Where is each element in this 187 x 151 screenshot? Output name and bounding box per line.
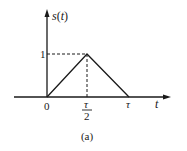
x-tick-tau: τ [126,98,131,110]
x-tick-origin: 0 [44,100,50,112]
y-axis-arrow-icon [45,9,50,17]
x-tick-half-tau-numerator: τ [84,98,89,110]
y-tick-one: 1 [40,48,46,60]
x-axis-arrow-icon [163,95,171,100]
x-axis-label: t [155,97,159,111]
figure-caption: (a) [81,130,94,143]
signal-curve [47,54,129,97]
triangle-pulse-diagram: s(t) 1 0 τ 2 τ t (a) [0,0,187,151]
y-axis-label: s(t) [52,9,68,23]
x-tick-half-tau-denominator: 2 [84,110,90,122]
